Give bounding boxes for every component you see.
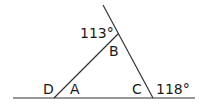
angle-label-113: 113° (80, 26, 114, 40)
label-d: D (43, 82, 54, 96)
triangle-diagram: 113° B D A C 118° (0, 0, 203, 110)
vertex-label-a: A (70, 82, 80, 96)
angle-label-118: 118° (156, 82, 190, 96)
vertex-label-b: B (109, 44, 119, 58)
vertex-label-c: C (132, 82, 142, 96)
